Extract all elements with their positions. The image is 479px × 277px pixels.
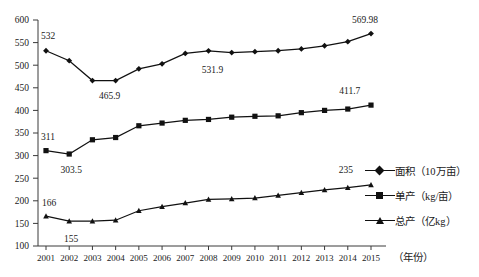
data-point-square	[113, 135, 118, 140]
x-tick-label: 2013	[316, 253, 335, 263]
data-point-square	[276, 113, 281, 118]
y-tick-label: 500	[15, 61, 30, 71]
data-point-diamond	[298, 46, 304, 52]
x-tick-label: 2008	[200, 253, 219, 263]
legend-label-yield: 单产（kg/亩）	[395, 188, 458, 203]
data-point-diamond	[159, 61, 165, 67]
series-area	[43, 31, 374, 84]
data-value-label: 311	[41, 132, 55, 142]
data-point-square	[229, 115, 234, 120]
y-tick-label: 550	[15, 38, 30, 48]
data-value-label: 166	[42, 198, 57, 208]
data-value-label: 235	[339, 165, 354, 175]
square-marker-icon	[365, 190, 395, 202]
data-point-square	[345, 106, 350, 111]
data-point-square	[67, 151, 72, 156]
data-point-square	[299, 110, 304, 115]
x-tick-label: 2007	[176, 253, 195, 263]
x-tick-label: 2006	[153, 253, 172, 263]
chart-legend: 面积（10万亩） 单产（kg/亩） 总产（亿kg）	[365, 158, 477, 233]
legend-label-area: 面积（10万亩）	[395, 163, 466, 178]
data-point-square	[368, 103, 373, 108]
data-point-diamond	[206, 48, 212, 54]
data-point-diamond	[229, 50, 235, 56]
legend-item-total[interactable]: 总产（亿kg）	[365, 208, 477, 233]
y-tick-label: 450	[15, 83, 30, 93]
y-tick-label: 600	[15, 15, 30, 25]
triangle-marker-icon	[365, 215, 395, 227]
data-point-square	[43, 148, 48, 153]
data-point-square	[252, 114, 257, 119]
y-tick-label: 250	[15, 174, 30, 184]
data-value-label: 303.5	[61, 165, 83, 175]
y-tick-label: 100	[15, 241, 30, 251]
data-point-square	[183, 118, 188, 123]
diamond-marker-icon	[365, 165, 395, 177]
x-tick-label: 2005	[130, 253, 149, 263]
line-chart-plot: 1001502002503003504004505005506002001200…	[0, 0, 479, 277]
data-point-diamond	[252, 49, 258, 55]
y-tick-label: 350	[15, 128, 30, 138]
x-axis-caption: （年份）	[393, 249, 433, 264]
series-yield	[43, 103, 373, 157]
data-point-diamond	[275, 48, 281, 54]
data-point-square	[322, 108, 327, 113]
x-tick-label: 2004	[107, 253, 126, 263]
chart-container: 1001502002503003504004505005506002001200…	[0, 0, 479, 277]
x-tick-label: 2009	[223, 253, 242, 263]
data-point-square	[136, 123, 141, 128]
x-tick-label: 2010	[246, 253, 265, 263]
legend-item-area[interactable]: 面积（10万亩）	[365, 158, 477, 183]
data-point-diamond	[113, 78, 119, 84]
x-tick-label: 2002	[60, 253, 78, 263]
y-tick-label: 300	[15, 151, 30, 161]
data-point-diamond	[182, 51, 188, 57]
data-point-diamond	[43, 48, 49, 54]
x-tick-label: 2014	[339, 253, 358, 263]
data-point-square	[90, 137, 95, 142]
data-point-diamond	[368, 31, 374, 37]
x-tick-label: 2015	[362, 253, 381, 263]
series-total	[43, 182, 374, 223]
data-value-label: 531.9	[202, 65, 224, 75]
legend-label-total: 总产（亿kg）	[395, 213, 456, 228]
x-tick-label: 2012	[292, 253, 310, 263]
series-line	[46, 185, 371, 221]
y-tick-label: 200	[15, 196, 30, 206]
data-point-triangle	[43, 213, 49, 218]
data-value-label: 532	[41, 31, 56, 41]
data-value-label: 465.9	[99, 91, 121, 101]
data-value-label: 411.7	[339, 86, 360, 96]
x-tick-label: 2011	[269, 253, 287, 263]
data-point-diamond	[345, 39, 351, 45]
x-tick-label: 2001	[37, 253, 55, 263]
data-value-label: 569.98	[352, 15, 378, 25]
legend-item-yield[interactable]: 单产（kg/亩）	[365, 183, 477, 208]
data-point-diamond	[322, 43, 328, 49]
data-value-label: 155	[64, 234, 79, 244]
data-point-square	[206, 117, 211, 122]
data-point-diamond	[136, 66, 142, 72]
data-point-square	[159, 120, 164, 125]
x-tick-label: 2003	[83, 253, 102, 263]
y-tick-label: 400	[15, 106, 30, 116]
y-tick-label: 150	[15, 219, 30, 229]
